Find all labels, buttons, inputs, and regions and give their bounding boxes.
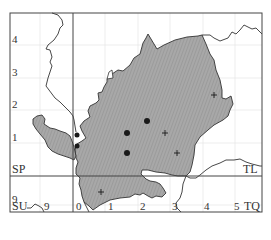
grid-square-label-tl: TL	[243, 163, 258, 175]
y-tick-1: 1	[12, 132, 18, 143]
record-dot	[124, 130, 130, 136]
grid-square-label-su: SU	[12, 200, 27, 212]
record-dot	[124, 150, 130, 156]
y-tick-3: 3	[12, 67, 18, 78]
x-tick-1: 1	[108, 201, 114, 212]
grid-square-label-sp: SP	[12, 163, 25, 175]
x-tick-3: 3	[172, 201, 178, 212]
distribution-map: 4 3 2 1 SP TL 9 SU 9 0 1 2 3 4 5 TQ	[0, 0, 271, 240]
y-tick-4: 4	[12, 34, 18, 45]
grid-square-label-tq: TQ	[244, 200, 260, 212]
y-tick-2: 2	[12, 99, 18, 110]
map-canvas	[0, 0, 271, 240]
shaded-region-west	[33, 115, 76, 160]
record-dot	[75, 133, 80, 138]
record-dot	[75, 144, 80, 149]
x-tick-2: 2	[140, 201, 146, 212]
shaded-region	[75, 34, 233, 210]
river-notch	[107, 70, 113, 79]
x-tick-4: 4	[204, 201, 210, 212]
x-tick-0: 0	[76, 201, 82, 212]
x-tick-9: 9	[44, 201, 50, 212]
x-tick-5: 5	[234, 201, 240, 212]
record-dot	[144, 118, 150, 124]
